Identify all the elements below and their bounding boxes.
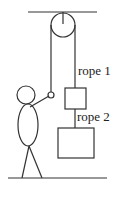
pulley-diagram: rope 1 rope 2 [0,0,126,198]
block-1 [65,88,86,109]
person-hand [48,92,54,98]
person [17,86,54,178]
person-head [17,86,35,104]
rope-1-label: rope 1 [78,63,111,78]
person-body [18,104,38,146]
rope-2-label: rope 2 [77,109,110,124]
block-2 [58,128,94,158]
person-right-leg [29,146,42,178]
person-left-leg [22,146,29,178]
